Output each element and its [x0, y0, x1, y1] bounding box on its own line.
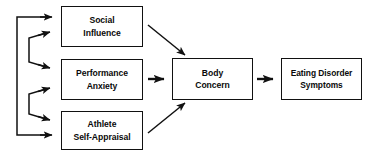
edge-athlete-to-body — [148, 103, 185, 133]
edge-feedback-bracket-lower — [29, 89, 46, 119]
node-eating-disorder-symptoms-line-1: Eating Disorder — [291, 67, 353, 80]
node-athlete-self-appraisal-line-1: Athlete — [88, 118, 117, 131]
arrowhead-into-performance-lower — [38, 88, 50, 92]
node-athlete-self-appraisal-line-2: Self-Appraisal — [73, 131, 130, 144]
node-body-concern-line-2: Concern — [195, 79, 230, 92]
node-performance-anxiety-line-2: Anxiety — [87, 80, 118, 93]
node-athlete-self-appraisal: Athlete Self-Appraisal — [61, 111, 143, 150]
node-eating-disorder-symptoms: Eating Disorder Symptoms — [281, 58, 362, 100]
node-social-influence-line-1: Social — [89, 14, 114, 27]
edge-feedback-bracket-upper — [29, 33, 46, 67]
edge-social-to-body — [148, 25, 185, 55]
arrowhead-into-social-inner — [38, 32, 50, 36]
arrowhead-into-performance-upper — [38, 65, 50, 69]
arrowhead-into-athlete-inner — [38, 117, 50, 121]
node-social-influence-line-2: Influence — [83, 27, 120, 40]
flowchart-diagram: Social Influence Performance Anxiety Ath… — [0, 0, 380, 155]
node-body-concern-line-1: Body — [202, 67, 223, 80]
node-body-concern: Body Concern — [172, 58, 253, 100]
node-performance-anxiety-line-1: Performance — [76, 67, 128, 80]
node-social-influence: Social Influence — [61, 6, 143, 47]
node-eating-disorder-symptoms-line-2: Symptoms — [300, 79, 342, 92]
node-performance-anxiety: Performance Anxiety — [61, 59, 143, 100]
